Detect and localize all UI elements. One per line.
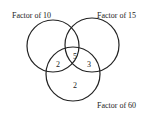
- region-ten-and-sixty: 2: [56, 60, 60, 69]
- label-factor-of-15: Factor of 15: [97, 11, 136, 20]
- label-factor-of-10: Factor of 10: [12, 11, 51, 20]
- venn-diagram: Factor of 10 Factor of 15 Factor of 60 5…: [0, 0, 146, 113]
- circle-factor-of-15: [65, 18, 119, 72]
- region-sixty-only: 2: [73, 81, 77, 90]
- region-fifteen-and-sixty: 3: [87, 60, 91, 69]
- label-factor-of-60: Factor of 60: [97, 101, 136, 110]
- region-all-three: 5: [73, 52, 77, 61]
